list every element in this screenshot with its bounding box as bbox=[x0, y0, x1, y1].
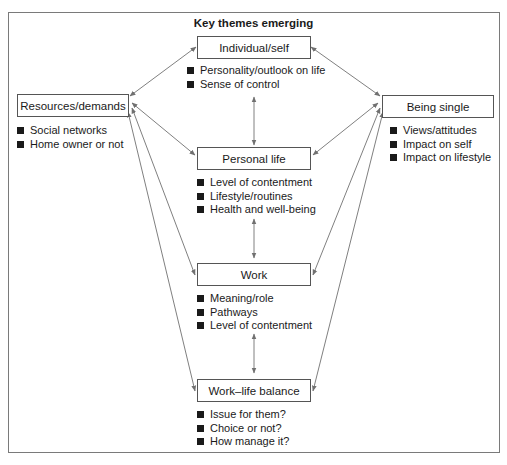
list-item: Impact on lifestyle bbox=[390, 151, 491, 165]
list-item: Issue for them? bbox=[197, 408, 290, 422]
being-single-themes-list: Views/attitudes Impact on self Impact on… bbox=[390, 124, 491, 165]
node-being-single: Being single bbox=[382, 95, 494, 118]
node-label: Work–life balance bbox=[208, 385, 299, 397]
square-bullet-icon bbox=[390, 154, 397, 161]
node-label: Work bbox=[241, 269, 268, 281]
resources-themes-list: Social networks Home owner or not bbox=[17, 124, 124, 151]
list-item: Personality/outlook on life bbox=[187, 64, 325, 78]
square-bullet-icon bbox=[197, 193, 204, 200]
arrow-single-work bbox=[313, 108, 380, 275]
node-work-life-balance: Work–life balance bbox=[197, 379, 311, 402]
node-label: Resources/demands bbox=[20, 100, 125, 112]
personal-life-themes-list: Level of contentment Lifestyle/routines … bbox=[197, 176, 316, 217]
list-item: Pathways bbox=[197, 306, 312, 320]
square-bullet-icon bbox=[197, 309, 204, 316]
individual-themes-list: Personality/outlook on life Sense of con… bbox=[187, 64, 325, 91]
square-bullet-icon bbox=[187, 81, 194, 88]
arrow-resources-work bbox=[132, 108, 195, 275]
square-bullet-icon bbox=[197, 179, 204, 186]
list-item: How manage it? bbox=[197, 435, 290, 449]
node-label: Personal life bbox=[222, 153, 285, 165]
list-item: Meaning/role bbox=[197, 292, 312, 306]
list-item: Views/attitudes bbox=[390, 124, 491, 138]
square-bullet-icon bbox=[390, 127, 397, 134]
arrow-single-balance bbox=[313, 112, 383, 391]
arrow-single-personal bbox=[313, 103, 378, 155]
list-item: Social networks bbox=[17, 124, 124, 138]
list-item: Level of contentment bbox=[197, 319, 312, 333]
square-bullet-icon bbox=[197, 322, 204, 329]
square-bullet-icon bbox=[17, 127, 24, 134]
list-item: Level of contentment bbox=[197, 176, 316, 190]
square-bullet-icon bbox=[197, 206, 204, 213]
node-personal-life: Personal life bbox=[197, 147, 311, 170]
arrow-resources-personal bbox=[132, 103, 195, 155]
work-themes-list: Meaning/role Pathways Level of contentme… bbox=[197, 292, 312, 333]
list-item: Sense of control bbox=[187, 78, 325, 92]
square-bullet-icon bbox=[197, 295, 204, 302]
list-item: Home owner or not bbox=[17, 138, 124, 152]
work-life-balance-themes-list: Issue for them? Choice or not? How manag… bbox=[197, 408, 290, 449]
square-bullet-icon bbox=[187, 67, 194, 74]
square-bullet-icon bbox=[197, 425, 204, 432]
node-resources-demands: Resources/demands bbox=[17, 94, 129, 117]
square-bullet-icon bbox=[390, 141, 397, 148]
arrow-resources-balance bbox=[128, 112, 195, 391]
list-item: Health and well-being bbox=[197, 203, 316, 217]
node-individual-self: Individual/self bbox=[197, 36, 311, 59]
list-item: Lifestyle/routines bbox=[197, 190, 316, 204]
square-bullet-icon bbox=[197, 438, 204, 445]
square-bullet-icon bbox=[17, 141, 24, 148]
square-bullet-icon bbox=[197, 411, 204, 418]
node-label: Being single bbox=[407, 101, 470, 113]
node-label: Individual/self bbox=[219, 42, 289, 54]
list-item: Impact on self bbox=[390, 138, 491, 152]
node-work: Work bbox=[197, 263, 311, 286]
list-item: Choice or not? bbox=[197, 422, 290, 436]
